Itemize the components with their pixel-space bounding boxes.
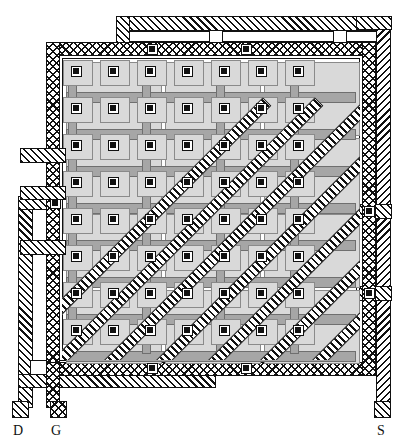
contact bbox=[219, 214, 230, 225]
contact bbox=[108, 325, 119, 336]
drain-top-bus-window-mid bbox=[222, 31, 334, 42]
left-tap-tab-upper bbox=[20, 148, 66, 163]
contact bbox=[108, 66, 119, 77]
contact bbox=[293, 325, 304, 336]
contact bbox=[256, 288, 267, 299]
terminal-contact bbox=[364, 206, 375, 217]
contact bbox=[293, 214, 304, 225]
contact bbox=[293, 140, 304, 151]
contact bbox=[71, 325, 82, 336]
contact bbox=[293, 66, 304, 77]
contact bbox=[293, 177, 304, 188]
contact bbox=[108, 288, 119, 299]
legend-label-drain: D bbox=[13, 424, 23, 438]
contact bbox=[182, 140, 193, 151]
contact bbox=[108, 214, 119, 225]
contact bbox=[108, 140, 119, 151]
legend-swatch-drain bbox=[12, 401, 29, 418]
source-right-bus-top-cap bbox=[356, 16, 392, 30]
contact bbox=[145, 251, 156, 262]
diagonal-metal-strip bbox=[62, 97, 323, 360]
contact bbox=[71, 103, 82, 114]
contact bbox=[108, 103, 119, 114]
terminal-contact bbox=[241, 363, 252, 374]
contact bbox=[219, 288, 230, 299]
contact bbox=[71, 251, 82, 262]
contact bbox=[219, 140, 230, 151]
contact bbox=[145, 325, 156, 336]
contact bbox=[71, 177, 82, 188]
ic-layout-figure: D G S bbox=[0, 0, 412, 448]
contact bbox=[71, 288, 82, 299]
contact bbox=[219, 103, 230, 114]
contact bbox=[256, 214, 267, 225]
contact bbox=[219, 251, 230, 262]
legend-swatch-source bbox=[374, 401, 391, 418]
legend-label-source: S bbox=[377, 424, 385, 438]
contact bbox=[293, 251, 304, 262]
contact bbox=[256, 325, 267, 336]
contact bbox=[256, 251, 267, 262]
contact bbox=[256, 66, 267, 77]
left-tap-tab-mid bbox=[20, 186, 66, 200]
contact bbox=[182, 288, 193, 299]
contact bbox=[145, 214, 156, 225]
contact bbox=[256, 177, 267, 188]
contact bbox=[219, 325, 230, 336]
contact bbox=[145, 66, 156, 77]
contact bbox=[182, 103, 193, 114]
terminal-contact bbox=[241, 44, 252, 55]
contact bbox=[145, 177, 156, 188]
contact bbox=[293, 288, 304, 299]
terminal-contact bbox=[147, 44, 158, 55]
gate-ring-bottom bbox=[46, 362, 376, 376]
contact bbox=[219, 66, 230, 77]
gate-ring-top bbox=[46, 42, 376, 56]
drain-top-bus bbox=[116, 16, 390, 31]
contact bbox=[182, 66, 193, 77]
contact bbox=[71, 214, 82, 225]
terminal-contact bbox=[364, 288, 375, 299]
contact bbox=[256, 103, 267, 114]
contact bbox=[256, 140, 267, 151]
contact bbox=[108, 177, 119, 188]
contact bbox=[145, 103, 156, 114]
gate-ring-left bbox=[46, 42, 60, 376]
contact bbox=[145, 140, 156, 151]
contact bbox=[182, 177, 193, 188]
contact bbox=[182, 251, 193, 262]
contact bbox=[145, 288, 156, 299]
drain-top-bus-window-right bbox=[346, 31, 378, 42]
legend-swatch-gate bbox=[50, 401, 67, 418]
left-tap-tab-lower bbox=[20, 240, 66, 255]
contact bbox=[293, 103, 304, 114]
contact bbox=[219, 177, 230, 188]
contact bbox=[182, 214, 193, 225]
drain-top-bus-window-left bbox=[128, 31, 210, 42]
legend-label-gate: G bbox=[51, 424, 61, 438]
terminal-contact bbox=[147, 363, 158, 374]
contact bbox=[108, 251, 119, 262]
contact bbox=[71, 66, 82, 77]
contact bbox=[182, 325, 193, 336]
drain-top-bus-stub bbox=[116, 16, 130, 44]
contact bbox=[71, 140, 82, 151]
